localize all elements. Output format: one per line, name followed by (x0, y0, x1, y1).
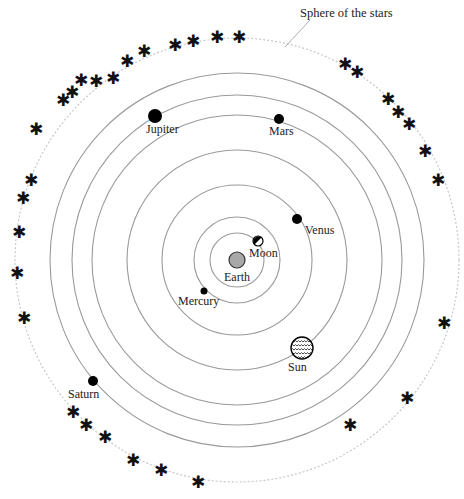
saturn-icon (88, 376, 98, 386)
star-icon: ✱ (210, 27, 224, 47)
star-icon: ✱ (12, 222, 26, 242)
star-icon: ✱ (89, 71, 103, 91)
star-icon: ✱ (79, 415, 93, 435)
celestial-bodies: EarthMoonMercuryVenusSunMarsJupiterSatur… (68, 109, 335, 401)
saturn-label: Saturn (68, 387, 99, 401)
star-icon: ✱ (120, 51, 134, 71)
star-icon: ✱ (400, 388, 414, 408)
earth-label: Earth (224, 270, 250, 284)
star-icon: ✱ (402, 114, 416, 134)
star-icon: ✱ (56, 90, 70, 110)
jupiter-icon (148, 109, 162, 123)
mars-label: Mars (269, 124, 294, 138)
star-icon: ✱ (154, 460, 168, 480)
mercury-label: Mercury (178, 294, 219, 308)
star-icon: ✱ (17, 308, 31, 328)
star-icon: ✱ (16, 188, 30, 208)
star-icon: ✱ (106, 68, 120, 88)
mars-icon (274, 114, 284, 124)
star-icon: ✱ (350, 62, 364, 82)
sphere-of-stars-label: Sphere of the stars (300, 6, 393, 20)
star-icon: ✱ (191, 472, 205, 492)
star-icon: ✱ (29, 119, 43, 139)
star-icon: ✱ (137, 41, 151, 61)
star-icon: ✱ (10, 263, 24, 283)
venus-icon (292, 214, 302, 224)
sun-icon (291, 337, 313, 359)
star-icon: ✱ (431, 170, 445, 190)
star-icon: ✱ (126, 450, 140, 470)
star-icon: ✱ (232, 27, 246, 47)
star-icon: ✱ (168, 35, 182, 55)
sun-label: Sun (288, 360, 307, 374)
star-icon: ✱ (24, 170, 38, 190)
star-icon: ✱ (186, 31, 200, 51)
star-icon: ✱ (343, 415, 357, 435)
star-icon: ✱ (418, 141, 432, 161)
star-icon: ✱ (98, 427, 112, 447)
star-icon: ✱ (437, 313, 451, 333)
earth-icon (229, 252, 245, 268)
jupiter-label: Jupiter (146, 122, 179, 136)
sphere-pointer-line (285, 20, 310, 47)
moon-label: Moon (249, 246, 278, 260)
venus-label: Venus (305, 223, 335, 237)
geocentric-diagram: Sphere of the stars ✱✱✱✱✱✱✱✱✱✱✱✱✱✱✱✱✱✱✱✱… (0, 0, 464, 499)
